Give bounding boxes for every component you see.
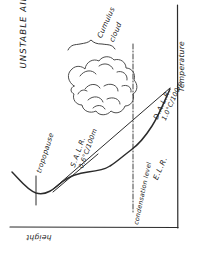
label-height-axis: height bbox=[26, 233, 51, 241]
cumulus-cloud-drawing bbox=[68, 57, 137, 115]
sketch-drawing bbox=[0, 0, 197, 254]
label-unstable-air: UNSTABLE AIR bbox=[19, 0, 28, 69]
height-axis-line bbox=[10, 227, 178, 228]
cumulus-brace bbox=[68, 40, 115, 50]
diagram-canvas: UNSTABLE AIR Cumulus cloud tropopause S.… bbox=[0, 0, 197, 254]
label-temperature-axis: Temperature bbox=[178, 41, 186, 92]
